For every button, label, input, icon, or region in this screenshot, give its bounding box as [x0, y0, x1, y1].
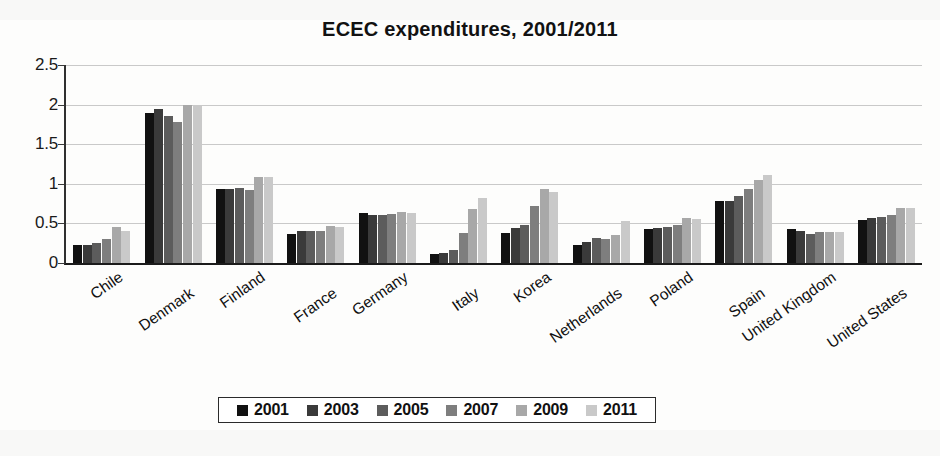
bar-group — [573, 65, 630, 263]
bar — [787, 229, 796, 263]
legend-label: 2005 — [394, 401, 429, 419]
scan-texture-band — [0, 0, 940, 20]
legend-label: 2011 — [603, 401, 637, 419]
bar — [459, 233, 468, 263]
bar — [715, 201, 724, 263]
bar — [193, 105, 202, 263]
bar — [592, 238, 601, 263]
bar — [368, 215, 377, 263]
bar — [83, 245, 92, 263]
bar-group — [145, 65, 202, 263]
bar-group — [287, 65, 344, 263]
bar — [611, 235, 620, 263]
bar — [397, 212, 406, 263]
bar — [734, 196, 743, 263]
bar — [216, 189, 225, 263]
bar — [387, 214, 396, 263]
bar — [92, 243, 101, 263]
bar — [673, 225, 682, 263]
bar — [825, 232, 834, 263]
bar — [297, 231, 306, 263]
y-axis: 00.511.522.5 — [0, 65, 58, 263]
bar — [468, 209, 477, 263]
y-tick-label: 1 — [0, 174, 58, 194]
bar — [121, 231, 130, 263]
bar-group — [359, 65, 416, 263]
chart-title: ECEC expenditures, 2001/2011 — [0, 18, 940, 41]
bar-group — [216, 65, 273, 263]
bar — [744, 189, 753, 263]
legend-item-2005[interactable]: 2005 — [377, 401, 429, 419]
chart-legend: 200120032005200720092011 — [218, 397, 656, 423]
bar — [73, 245, 82, 263]
bar — [530, 206, 539, 263]
bar — [867, 218, 876, 263]
legend-swatch-icon — [307, 405, 318, 416]
bar — [573, 245, 582, 263]
bar — [906, 208, 915, 263]
bar-group — [787, 65, 844, 263]
bar — [754, 180, 763, 263]
legend-swatch-icon — [516, 405, 527, 416]
y-tick-label: 0.5 — [0, 213, 58, 233]
legend-label: 2001 — [254, 401, 289, 419]
bar-group — [715, 65, 772, 263]
y-tick-label: 2 — [0, 95, 58, 115]
legend-item-2009[interactable]: 2009 — [516, 401, 568, 419]
bar — [501, 233, 510, 263]
bar — [601, 239, 610, 263]
chart-figure: ECEC expenditures, 2001/2011 00.511.522.… — [0, 0, 940, 456]
bar — [254, 177, 263, 263]
bar — [449, 250, 458, 263]
bar-group — [501, 65, 558, 263]
y-tick-label: 1.5 — [0, 134, 58, 154]
bar — [430, 254, 439, 264]
bar — [478, 198, 487, 263]
bar — [154, 109, 163, 263]
bar — [225, 189, 234, 263]
y-tick-label: 0 — [0, 253, 58, 273]
bar — [235, 188, 244, 263]
bar — [692, 219, 701, 263]
legend-item-2007[interactable]: 2007 — [446, 401, 498, 419]
bar — [725, 201, 734, 263]
legend-label: 2007 — [463, 401, 498, 419]
bar — [763, 175, 772, 263]
bar — [621, 221, 630, 263]
bar — [806, 234, 815, 263]
bar — [112, 227, 121, 263]
bar — [815, 232, 824, 263]
bar — [858, 220, 867, 263]
legend-item-2001[interactable]: 2001 — [237, 401, 289, 419]
bar — [264, 177, 273, 263]
bar — [877, 217, 886, 263]
legend-label: 2009 — [533, 401, 568, 419]
bar — [359, 213, 368, 263]
legend-swatch-icon — [377, 405, 388, 416]
bar — [145, 113, 154, 263]
bar — [378, 215, 387, 263]
bar — [335, 227, 344, 263]
bar — [540, 189, 549, 263]
bar — [164, 116, 173, 263]
bar — [306, 231, 315, 263]
bar — [316, 231, 325, 263]
bar-group — [430, 65, 487, 263]
bar — [245, 190, 254, 263]
bar — [644, 229, 653, 263]
legend-item-2003[interactable]: 2003 — [307, 401, 359, 419]
bar — [439, 253, 448, 263]
bar — [407, 213, 416, 263]
bar — [549, 192, 558, 263]
bar — [326, 226, 335, 263]
bar — [287, 234, 296, 263]
bar-group — [644, 65, 701, 263]
bars-layer — [64, 65, 920, 263]
bar — [682, 218, 691, 263]
bar — [173, 122, 182, 263]
bar — [796, 231, 805, 263]
bar-group — [73, 65, 130, 263]
legend-item-2011[interactable]: 2011 — [586, 401, 637, 419]
bar — [511, 228, 520, 263]
bar-group — [858, 65, 915, 263]
